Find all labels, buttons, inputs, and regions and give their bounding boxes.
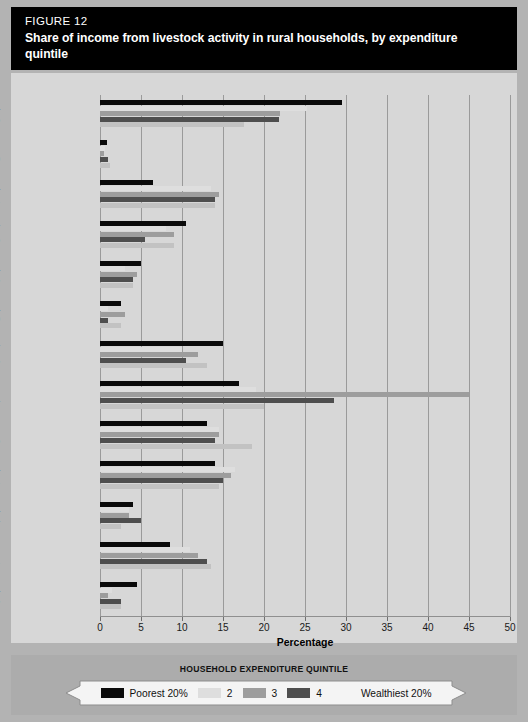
x-axis-tick — [387, 617, 388, 621]
bar-group: Nigeria2004 — [100, 502, 510, 530]
bar — [100, 564, 211, 569]
bar — [100, 438, 215, 443]
x-axis-tick-label: 20 — [258, 622, 269, 634]
x-axis-tick-label: 30 — [340, 622, 351, 634]
bar — [100, 146, 105, 151]
x-axis-tick — [469, 617, 470, 621]
x-axis-tick-label: 10 — [176, 622, 187, 634]
bar — [100, 301, 121, 306]
bar — [100, 461, 215, 466]
bar — [100, 283, 133, 288]
bar-group: Nepal1996 — [100, 421, 510, 449]
bar-group: Ecuador1995 — [100, 221, 510, 249]
bar — [100, 272, 137, 277]
bar — [100, 387, 256, 392]
bar — [100, 421, 207, 426]
plot-panel: Albania2005Bangladesh2000Bulgaria2001Ecu… — [11, 73, 517, 643]
bar — [100, 363, 207, 368]
legend-band: HOUSEHOLD EXPENDITURE QUINTILE Poorest 2… — [11, 655, 517, 715]
bar-group: Albania2005 — [100, 100, 510, 128]
bar — [100, 186, 211, 191]
x-axis-tick-label: 40 — [422, 622, 433, 634]
bar — [100, 232, 174, 237]
gridline — [510, 95, 511, 617]
legend-item: 4 — [287, 688, 322, 699]
x-axis-tick-label: 45 — [463, 622, 474, 634]
bar — [100, 473, 231, 478]
legend-label: 3 — [272, 688, 278, 699]
bar-group: Madagascar1993 — [100, 341, 510, 369]
bar — [100, 478, 223, 483]
bar — [100, 237, 145, 242]
bar — [100, 312, 125, 317]
bar — [100, 352, 198, 357]
legend-item: Poorest 20% — [101, 688, 188, 699]
x-axis-tick — [141, 617, 142, 621]
figure-number: FIGURE 12 — [25, 14, 503, 29]
bar — [100, 140, 107, 145]
bar-group: Panama2003 — [100, 582, 510, 610]
legend-swatch — [287, 688, 310, 698]
bar — [100, 588, 112, 593]
bar — [100, 604, 121, 609]
legend-item: 2 — [198, 688, 233, 699]
bar — [100, 226, 166, 231]
x-axis-title: Percentage — [100, 636, 510, 648]
x-axis-tick — [100, 617, 101, 621]
x-axis-tick — [510, 617, 511, 621]
x-axis-tick-label: 5 — [138, 622, 144, 634]
legend-swatch — [243, 688, 266, 698]
bar — [100, 261, 141, 266]
x-axis-tick-label: 35 — [381, 622, 392, 634]
bar — [100, 553, 198, 558]
x-axis-tick — [428, 617, 429, 621]
bar — [100, 381, 239, 386]
x-axis-tick — [305, 617, 306, 621]
bar — [100, 318, 108, 323]
bar — [100, 151, 104, 156]
bar — [100, 323, 121, 328]
bar — [100, 243, 174, 248]
x-axis-tick — [346, 617, 347, 621]
bar — [100, 467, 235, 472]
bar — [100, 117, 279, 122]
legend-swatch — [332, 688, 355, 698]
bar — [100, 404, 264, 409]
plot-area: Albania2005Bangladesh2000Bulgaria2001Ecu… — [100, 95, 510, 617]
bar — [100, 347, 182, 352]
bar — [100, 392, 469, 397]
bar — [100, 100, 342, 105]
bar — [100, 180, 153, 185]
legend-caption: HOUSEHOLD EXPENDITURE QUINTILE — [11, 664, 517, 674]
x-axis-tick-label: 15 — [217, 622, 228, 634]
bar-group: Pakistan2001 — [100, 542, 510, 570]
legend-item: Wealthiest 20% — [332, 688, 432, 699]
legend-swatch — [101, 688, 124, 698]
bar-group: Bangladesh2000 — [100, 140, 510, 168]
bar — [100, 157, 108, 162]
figure-title: Share of income from livestock activity … — [25, 30, 503, 62]
bar — [100, 559, 207, 564]
bar — [100, 524, 121, 529]
x-axis-tick-label: 0 — [97, 622, 103, 634]
x-axis-tick — [264, 617, 265, 621]
x-axis-tick-label: 50 — [504, 622, 515, 634]
bar — [100, 192, 219, 197]
legend-label: 4 — [316, 688, 322, 699]
figure-container: FIGURE 12 Share of income from livestock… — [0, 0, 528, 722]
bar — [100, 518, 141, 523]
bar — [100, 111, 280, 116]
bar-group: Ghana1998 — [100, 261, 510, 289]
bar — [100, 221, 186, 226]
legend-label: 2 — [227, 688, 233, 699]
bar — [100, 542, 170, 547]
figure-title-band: FIGURE 12 Share of income from livestock… — [11, 7, 517, 70]
bar-group: Nicaragua2001 — [100, 461, 510, 489]
bar — [100, 502, 133, 507]
x-axis-tick-labels: 05101520253035404550 — [100, 622, 510, 636]
x-axis-tick — [223, 617, 224, 621]
legend-item: 3 — [243, 688, 278, 699]
bar — [100, 203, 215, 208]
bar — [100, 507, 129, 512]
bar — [100, 398, 334, 403]
